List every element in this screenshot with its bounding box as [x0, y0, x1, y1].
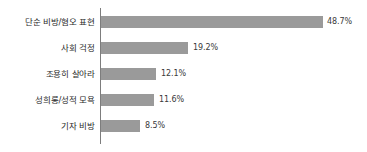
bar-value-label: 8.5% — [145, 121, 165, 131]
bar-segment — [101, 16, 323, 28]
bar-segment — [101, 94, 154, 106]
bar-value-label: 12.1% — [161, 69, 186, 79]
category-label: 사회 걱정 — [3, 43, 95, 54]
bar-segment — [101, 42, 188, 54]
category-label: 성희롱/성적 모욕 — [3, 95, 95, 106]
bar-row: 조용히 살아라 12.1% — [0, 62, 367, 86]
category-label: 단순 비방/혐오 표현 — [3, 17, 95, 28]
bar-segment — [101, 68, 156, 80]
bar-segment — [101, 120, 140, 132]
bar-row: 기자 비방 8.5% — [0, 114, 367, 138]
bar-value-label: 48.7% — [327, 17, 352, 27]
bar-value-label: 19.2% — [193, 43, 218, 53]
plot-area: 단순 비방/혐오 표현 48.7% 사회 걱정 19.2% 조용히 살아라 12… — [0, 0, 367, 152]
horizontal-bar-chart: 단순 비방/혐오 표현 48.7% 사회 걱정 19.2% 조용히 살아라 12… — [0, 0, 367, 152]
bar-row: 사회 걱정 19.2% — [0, 36, 367, 60]
category-label: 기자 비방 — [3, 121, 95, 132]
bar-row: 단순 비방/혐오 표현 48.7% — [0, 10, 367, 34]
bar-value-label: 11.6% — [159, 95, 184, 105]
bar-row: 성희롱/성적 모욕 11.6% — [0, 88, 367, 112]
category-label: 조용히 살아라 — [3, 69, 95, 80]
